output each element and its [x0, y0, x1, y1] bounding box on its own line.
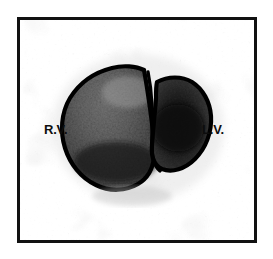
- scan-canvas: R.V. L.V.: [20, 20, 254, 240]
- figure-root: R.V. L.V.: [0, 0, 273, 259]
- inferior-shadow: [92, 186, 172, 206]
- scan-image-frame: R.V. L.V.: [17, 17, 257, 243]
- label-right-ventricle: R.V.: [44, 123, 67, 136]
- lv-dark-core: [152, 104, 204, 152]
- label-left-ventricle: L.V.: [202, 123, 224, 136]
